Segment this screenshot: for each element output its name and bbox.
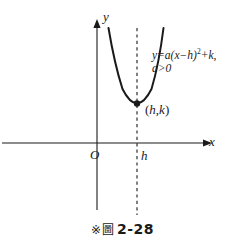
vertex-point-marker	[134, 100, 140, 106]
caption-figure-number: 2-28	[117, 221, 154, 237]
origin-label: O	[90, 148, 99, 161]
vertex-coordinate-label: (h,k)	[145, 103, 169, 116]
figure-container: y x O h (h,k) y=a(x−h)2+k,a>0 ※圖2-28	[0, 0, 245, 251]
vertex-paren-close: )	[165, 102, 169, 117]
equation-annotation: y=a(x−h)2+k,a>0	[152, 48, 216, 75]
y-axis-arrowhead	[93, 19, 100, 28]
x-tick-label-h: h	[141, 149, 148, 162]
equation-line-1: y=a(x−h)2+k,	[152, 49, 216, 61]
x-axis-label: x	[209, 135, 215, 148]
equation-condition: a>0	[152, 63, 216, 75]
caption-cjk-figure-character: 圖	[102, 223, 115, 237]
y-axis-label: y	[103, 10, 109, 23]
equation-rhs: +k,	[201, 49, 217, 61]
reference-mark-icon: ※	[91, 223, 102, 237]
equation-lhs: y=a(x−h)	[152, 49, 197, 61]
figure-caption: ※圖2-28	[0, 220, 245, 237]
parabola-plot	[0, 0, 245, 251]
